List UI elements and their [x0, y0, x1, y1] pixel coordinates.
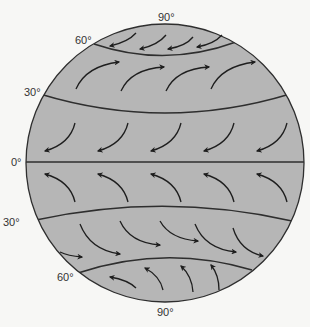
label-30n: 30° — [24, 86, 41, 98]
label-south-pole: 90° — [157, 306, 174, 318]
label-30s: 30° — [3, 216, 20, 228]
globe — [26, 24, 304, 302]
label-equator: 0° — [11, 156, 22, 168]
label-60s: 60° — [57, 271, 74, 283]
label-60n: 60° — [75, 34, 92, 46]
label-north-pole: 90° — [158, 11, 175, 23]
wind-circulation-diagram: 90° 60° 30° 0° 30° 60° 90° — [0, 0, 310, 327]
